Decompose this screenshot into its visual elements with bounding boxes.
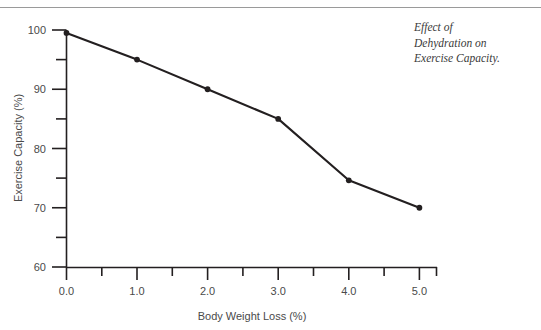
- figure-container: 100 90 80 70 60 0.0 1.0 2.0 3.0 4.0 5.0 …: [0, 0, 541, 330]
- y-tick-label-80: 80: [34, 143, 46, 155]
- y-tick-label-70: 70: [34, 202, 46, 214]
- x-minor-ticks: [102, 267, 437, 276]
- x-tick-label-1: 1.0: [129, 285, 144, 297]
- data-point-1: [134, 57, 140, 63]
- x-tick-label-0: 0.0: [59, 285, 74, 297]
- x-axis-title: Body Weight Loss (%): [198, 310, 307, 322]
- data-point-5: [417, 205, 423, 211]
- x-tick-label-3: 3.0: [271, 285, 286, 297]
- x-tick-label-5: 5.0: [412, 285, 427, 297]
- caption-line-1: Effect of: [414, 20, 539, 36]
- data-point-4: [346, 177, 352, 183]
- y-major-ticks: [52, 30, 67, 267]
- data-markers: [64, 30, 423, 211]
- data-point-0: [64, 30, 70, 36]
- data-point-2: [205, 86, 211, 92]
- caption-line-2: Dehydration on: [414, 36, 539, 52]
- data-line-exercise-capacity: [67, 33, 420, 208]
- y-tick-labels: 100 90 80 70 60: [28, 24, 46, 273]
- x-tick-label-4: 4.0: [341, 285, 356, 297]
- data-point-3: [275, 116, 281, 122]
- y-axis-title: Exercise Capacity (%): [12, 94, 24, 202]
- y-tick-label-90: 90: [34, 83, 46, 95]
- x-tick-labels: 0.0 1.0 2.0 3.0 4.0 5.0: [59, 285, 427, 297]
- caption-line-3: Exercise Capacity.: [414, 51, 539, 67]
- y-tick-label-100: 100: [28, 24, 46, 36]
- x-tick-label-2: 2.0: [200, 285, 215, 297]
- figure-caption: Effect of Dehydration on Exercise Capaci…: [414, 20, 539, 67]
- y-tick-label-60: 60: [34, 261, 46, 273]
